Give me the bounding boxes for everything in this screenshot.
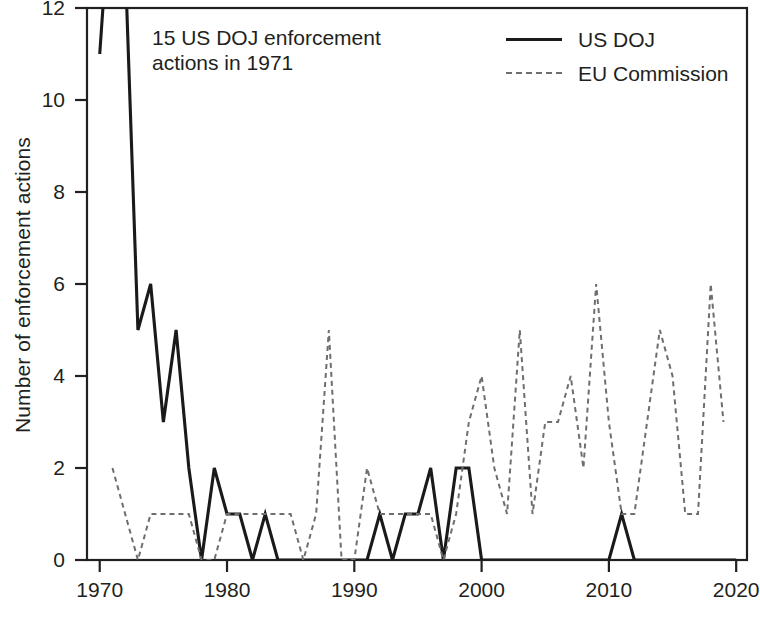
legend-item: EU Commission	[506, 56, 729, 90]
legend-label: US DOJ	[578, 29, 655, 50]
y-tick-label: 10	[25, 88, 65, 112]
y-tick-label: 12	[25, 0, 65, 20]
chart-legend: US DOJEU Commission	[506, 22, 729, 90]
x-tick-label: 1990	[331, 578, 378, 602]
y-tick-label: 6	[25, 272, 65, 296]
legend-solid-line-icon	[506, 38, 562, 41]
x-tick-label: 1970	[76, 578, 123, 602]
x-tick-label: 2010	[586, 578, 633, 602]
x-tick-label: 2020	[713, 578, 760, 602]
y-tick-label: 0	[25, 548, 65, 572]
y-tick-label: 4	[25, 364, 65, 388]
y-tick-label: 8	[25, 180, 65, 204]
x-tick-label: 2000	[458, 578, 505, 602]
legend-dashed-line-icon	[506, 72, 562, 74]
x-tick-label: 1980	[204, 578, 251, 602]
chart-annotation: 15 US DOJ enforcement actions in 1971	[152, 26, 381, 76]
legend-label: EU Commission	[578, 63, 729, 84]
plot-frame	[87, 8, 747, 560]
legend-item: US DOJ	[506, 22, 729, 56]
y-tick-label: 2	[25, 456, 65, 480]
series-line-eu-commission	[112, 284, 723, 560]
